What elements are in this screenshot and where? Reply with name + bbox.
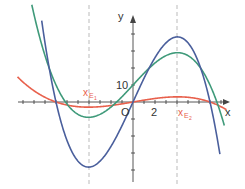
y-tick-label-10: 10 xyxy=(116,79,128,91)
x-axis-arrow xyxy=(223,99,230,105)
y-axis-arrow xyxy=(130,15,136,23)
x-axis-label: x xyxy=(225,106,231,118)
svg-text:x: x xyxy=(178,107,183,118)
svg-text:x: x xyxy=(83,87,88,98)
xe2-label: x E 2 xyxy=(178,107,192,121)
svg-text:1: 1 xyxy=(94,95,97,101)
blue-curve xyxy=(42,21,220,167)
y-axis-label: y xyxy=(118,10,124,22)
chart: y x O 2 10 x E 1 x E 2 xyxy=(0,0,245,189)
svg-text:2: 2 xyxy=(189,115,192,121)
x-tick-label-2: 2 xyxy=(151,106,157,118)
xe1-label: x E 1 xyxy=(83,87,97,101)
origin-label: O xyxy=(121,106,130,118)
